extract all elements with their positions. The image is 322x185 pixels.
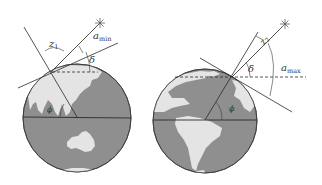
right-latitude-label: ϕ: [229, 104, 235, 113]
right-altitude-arc: [268, 43, 274, 96]
left-declination-label: δ: [89, 54, 95, 65]
right-altitude-label: amax: [281, 62, 301, 75]
left-altitude-label: amin: [93, 30, 111, 43]
left-latitude-label: ϕ: [47, 105, 53, 114]
right-star-icon: [280, 19, 290, 29]
astronomy-diagram: z1 amin δ ϕ: [0, 0, 322, 185]
right-globe: z2 δ amax ϕ: [153, 19, 306, 176]
left-star-icon: [95, 18, 105, 28]
left-altitude-arc: [79, 46, 83, 53]
right-declination-label: δ: [248, 63, 254, 74]
left-zenith-label: z1: [48, 38, 58, 51]
right-zenith-label: z2: [257, 34, 271, 48]
right-star-line: [232, 26, 283, 77]
left-globe: z1 amin δ ϕ: [18, 18, 131, 176]
